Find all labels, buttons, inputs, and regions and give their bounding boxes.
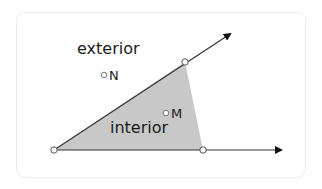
interior-label: interior (110, 120, 168, 136)
vertex-point (51, 147, 57, 153)
point-n-label: N (109, 69, 119, 82)
point-m-label: M (171, 107, 182, 120)
point-n-marker (101, 72, 107, 78)
angle-diagram (0, 0, 322, 189)
lower-ray-point (200, 147, 206, 153)
point-m-marker (163, 110, 169, 116)
upper-ray-point (182, 59, 188, 65)
exterior-label: exterior (77, 41, 140, 57)
